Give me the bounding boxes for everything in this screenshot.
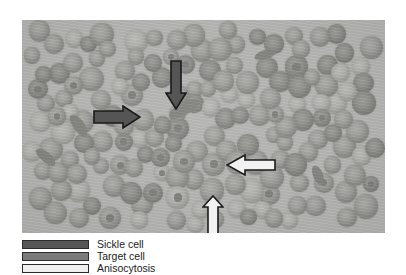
red-blood-cell [69, 208, 89, 228]
red-blood-cell [173, 150, 195, 172]
red-blood-cell [143, 183, 163, 203]
red-blood-cell [344, 165, 365, 186]
red-blood-cell [128, 48, 145, 65]
red-blood-cell [165, 135, 182, 152]
legend-item: Sickle cell [22, 239, 222, 250]
legend-label-target-cell: Target cell [97, 251, 145, 262]
legend: Sickle cell Target cell Anisocytosis [22, 239, 222, 275]
red-blood-cell [331, 63, 350, 82]
red-blood-cell [131, 211, 149, 229]
red-blood-cell [79, 67, 103, 91]
red-blood-cell [64, 76, 84, 96]
red-blood-cell [360, 36, 383, 59]
red-blood-cell [260, 88, 281, 109]
red-blood-cell [327, 24, 346, 43]
red-blood-cell [112, 78, 129, 95]
red-blood-cell [219, 21, 237, 39]
red-blood-cell [144, 54, 162, 72]
legend-label-sickle-cell: Sickle cell [97, 239, 144, 250]
target-cell-arrow [165, 60, 187, 110]
red-blood-cell [202, 98, 220, 116]
red-blood-cell [99, 207, 121, 229]
red-blood-cell [337, 208, 356, 227]
red-blood-cell [44, 34, 64, 54]
red-blood-cell [365, 138, 385, 158]
red-blood-cell [236, 71, 260, 95]
red-blood-cell [335, 43, 354, 62]
red-blood-cell [99, 41, 116, 58]
red-blood-cell [44, 202, 67, 225]
red-blood-cell [288, 196, 307, 215]
blood-smear-micrograph [22, 20, 385, 233]
red-blood-cell [167, 30, 187, 50]
legend-swatch-anisocytosis [22, 264, 89, 273]
anisocytosis-arrow-up [202, 195, 224, 233]
red-blood-cell [324, 156, 342, 174]
red-blood-cell [290, 174, 309, 193]
red-blood-cell [167, 211, 186, 230]
red-blood-cell [132, 73, 151, 92]
red-blood-cell [292, 40, 310, 58]
legend-swatch-target-cell [22, 252, 89, 261]
red-blood-cell [213, 70, 234, 91]
anisocytosis-arrow-left [226, 154, 276, 176]
red-blood-cell [313, 109, 331, 127]
sickle-cell-arrow [93, 105, 141, 129]
red-blood-cell [151, 148, 170, 167]
red-blood-cell [310, 27, 330, 47]
red-blood-cell [338, 82, 357, 101]
red-blood-cell [265, 209, 284, 228]
legend-item: Anisocytosis [22, 263, 222, 274]
red-blood-cell [63, 53, 83, 73]
red-blood-cell [35, 66, 52, 83]
red-blood-cell [354, 194, 378, 218]
legend-swatch-sickle-cell [22, 240, 89, 249]
red-blood-cell [284, 153, 307, 176]
legend-item: Target cell [22, 251, 222, 262]
red-blood-cell [166, 186, 189, 209]
red-blood-cell [240, 209, 256, 225]
red-blood-cell [120, 182, 142, 204]
red-blood-cell [238, 92, 254, 108]
red-blood-cell [51, 180, 72, 201]
red-blood-cell [305, 196, 326, 217]
red-blood-cell [67, 164, 87, 184]
legend-label-anisocytosis: Anisocytosis [97, 263, 155, 274]
red-blood-cell [125, 159, 143, 177]
red-blood-cell [24, 47, 40, 63]
red-blood-cell [146, 30, 163, 47]
red-blood-cell [231, 107, 248, 124]
red-blood-cell [304, 69, 321, 86]
